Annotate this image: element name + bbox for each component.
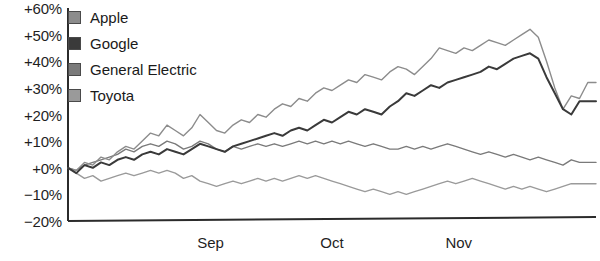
legend-label: Google bbox=[90, 36, 138, 51]
chart-legend: AppleGoogleGeneral ElectricToyota bbox=[68, 4, 197, 108]
legend-label: Toyota bbox=[90, 88, 134, 103]
legend-swatch-icon bbox=[68, 37, 81, 50]
series-line-toyota bbox=[68, 168, 596, 195]
x-axis-tick-label: Sep bbox=[197, 235, 224, 250]
legend-item-toyota: Toyota bbox=[68, 82, 197, 108]
x-axis-tick-label: Nov bbox=[445, 235, 472, 250]
legend-swatch-icon bbox=[68, 63, 81, 76]
x-axis-line bbox=[68, 217, 596, 221]
legend-item-google: Google bbox=[68, 30, 197, 56]
legend-label: General Electric bbox=[90, 62, 197, 77]
stock-performance-chart: +60%+50%+40%+30%+20%+10%+0%−10%−20% Appl… bbox=[0, 0, 600, 261]
legend-label: Apple bbox=[90, 10, 128, 25]
legend-item-apple: Apple bbox=[68, 4, 197, 30]
legend-item-general-electric: General Electric bbox=[68, 56, 197, 82]
x-axis-tick-label: Oct bbox=[320, 235, 343, 250]
series-line-general-electric bbox=[68, 141, 596, 170]
legend-swatch-icon bbox=[68, 89, 81, 102]
legend-swatch-icon bbox=[68, 11, 81, 24]
